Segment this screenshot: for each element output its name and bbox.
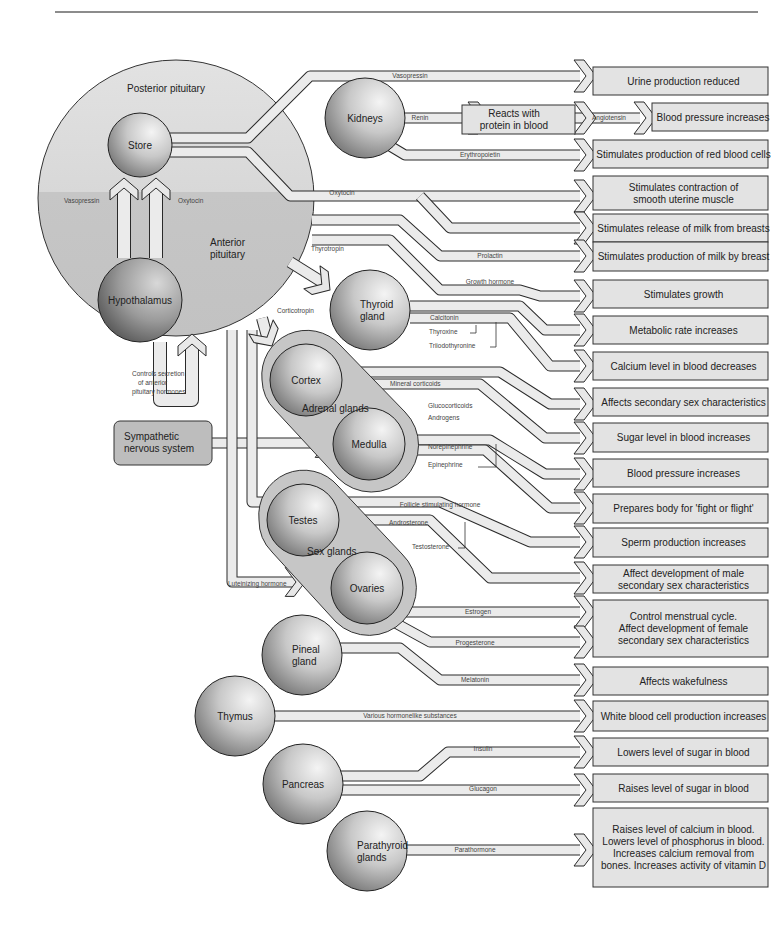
thymus-organ: Thymus [195, 676, 275, 756]
erythropoietin-label: Erythropoietin [460, 151, 500, 159]
effect-text: Raises level of sugar in blood [618, 783, 749, 794]
effect-text: Affect development of female [619, 623, 749, 634]
oxytocin-label: Oxytocin [329, 189, 355, 197]
reacts-box-line2: protein in blood [480, 120, 548, 131]
endocrine-system-diagram: StoreHypothalamusKidneysThyroidglandCort… [0, 0, 776, 950]
vasopressin-side-label: Vasopressin [64, 197, 100, 205]
controls-secretion-label: pituitary hormones [132, 388, 186, 396]
effect-text: Blood pressure increases [657, 112, 770, 123]
insulin-label: Insulin [474, 745, 493, 752]
effect-text: Prepares body for 'fight or flight' [613, 503, 754, 514]
effect-text: Sugar level in blood increases [617, 432, 750, 443]
store-label: Store [128, 140, 152, 151]
androgens-label: Androgens [428, 414, 460, 422]
effect-box: Blood pressure increases [593, 459, 768, 487]
effect-box: White blood cell production increases [593, 701, 768, 731]
effect-text: bones. Increases activity of vitamin D [601, 860, 766, 871]
pineal-organ: Pinealgland [262, 615, 342, 695]
effect-text: secondary sex characteristics [618, 580, 749, 591]
effect-text: Stimulates production of milk by breast [598, 251, 770, 262]
effect-box: Urine production reduced [593, 67, 768, 95]
effect-box: Stimulates production of red blood cells [593, 140, 771, 168]
effect-box: Stimulates production of milk by breast [593, 242, 770, 271]
effect-text: Calcium level in blood decreases [610, 361, 756, 372]
kidneys-label: Kidneys [347, 113, 383, 124]
effect-text: Stimulates release of milk from breasts [597, 223, 769, 234]
effect-text: Affect development of male [623, 568, 744, 579]
effect-text: White blood cell production increases [601, 711, 767, 722]
parathyroid-organ: Parathyroidglands [327, 811, 408, 891]
norepinephrine-label: Norepinephrine [428, 443, 473, 451]
medulla-organ: Medulla [333, 408, 405, 480]
anterior-pituitary-label-2: pituitary [210, 249, 245, 260]
effect-text: Control menstrual cycle. [630, 611, 737, 622]
vasopressin-label: Vasopressin [392, 72, 428, 80]
pineal-label-2: gland [292, 656, 316, 667]
parathyroid-label-1: Parathyroid [357, 840, 408, 851]
effect-box: Stimulates release of milk from breasts [593, 214, 770, 242]
hypothalamus-organ: Hypothalamus [98, 258, 182, 342]
effect-box: Control menstrual cycle.Affect developme… [593, 600, 768, 657]
thyroid-label-2: gland [360, 311, 384, 322]
angiotensin-label: Angiotensin [592, 114, 626, 122]
prolactin-label: Prolactin [477, 252, 503, 259]
renin-label: Renin [412, 114, 429, 121]
calcitonin-label: Calcitonin [430, 314, 459, 321]
effect-box: Affects wakefulness [593, 667, 768, 695]
estrogen-label: Estrogen [465, 608, 491, 616]
ovaries-label: Ovaries [350, 583, 384, 594]
epinephrine-label: Epinephrine [428, 461, 463, 469]
thyroid-label-1: Thyroid [360, 299, 393, 310]
thyrotropin-label: Thyrotropin [311, 245, 344, 253]
thyroid-organ: Thyroidgland [330, 270, 410, 350]
effect-box: Sugar level in blood increases [593, 423, 768, 452]
cortex-label: Cortex [291, 375, 320, 386]
effect-box: Lowers level of sugar in blood [593, 738, 768, 766]
luteinizing-label: Luteinizing hormone [228, 580, 287, 588]
effect-text: secondary sex characteristics [618, 635, 749, 646]
parathyroid-label-2: glands [357, 852, 386, 863]
ovaries-organ: Ovaries [331, 552, 403, 624]
effect-text: Raises level of calcium in blood. [612, 824, 754, 835]
growth-hormone-label: Growth hormone [466, 278, 515, 285]
effect-text: Stimulates contraction of [629, 182, 739, 193]
sex-glands-label: Sex glands [307, 546, 356, 557]
reacts-with-protein-box: Reacts withprotein in blood [462, 105, 575, 134]
effect-text: Affects wakefulness [639, 676, 727, 687]
fsh-label: Follicle stimulating hormone [400, 501, 481, 509]
controls-secretion-label: of anterior [138, 379, 168, 386]
sympathetic-line1: Sympathetic [124, 431, 179, 442]
various-label: Various hormonelike substances [363, 712, 457, 719]
effect-box: Raises level of sugar in blood [593, 774, 768, 802]
thymus-label: Thymus [217, 711, 253, 722]
mineral-corticoids-label: Mineral corticoids [390, 380, 441, 387]
testes-label: Testes [289, 515, 318, 526]
effect-text: Stimulates production of red blood cells [596, 149, 771, 160]
store-organ: Store [108, 113, 172, 177]
pancreas-label: Pancreas [282, 779, 324, 790]
thyroxine-label: Thyroxine [429, 328, 458, 336]
bracket-line [490, 322, 496, 347]
effect-box: Sperm production increases [593, 528, 768, 557]
effect-box: Stimulates contraction ofsmooth uterine … [593, 176, 768, 210]
effect-box: Raises level of calcium in blood.Lowers … [593, 808, 768, 887]
glucocorticoids-label: Glucocorticoids [428, 402, 473, 409]
effect-text: smooth uterine muscle [633, 194, 734, 205]
posterior-pituitary-label: Posterior pituitary [127, 83, 205, 94]
pineal-label-1: Pineal [292, 644, 320, 655]
bracket-line [470, 325, 476, 333]
effect-text: Affects secondary sex characteristics [601, 397, 765, 408]
anterior-pituitary-label-1: Anterior [210, 237, 246, 248]
triiodothyronine-label: Triiodothyronine [429, 342, 476, 350]
parathormone-label: Parathormone [454, 846, 496, 853]
effect-box: Prepares body for 'fight or flight' [593, 494, 768, 523]
effect-text: Lowers level of sugar in blood [617, 747, 749, 758]
corticotropin-label: Corticotropin [277, 307, 314, 315]
melatonin-label: Melatonin [461, 676, 490, 683]
effect-text: Metabolic rate increases [629, 325, 737, 336]
pancreas-organ: Pancreas [263, 744, 343, 824]
effect-text: Urine production reduced [627, 76, 739, 87]
hypothalamus-label: Hypothalamus [108, 295, 172, 306]
glucagon-label: Glucagon [469, 785, 497, 793]
effect-box: Metabolic rate increases [593, 316, 768, 344]
